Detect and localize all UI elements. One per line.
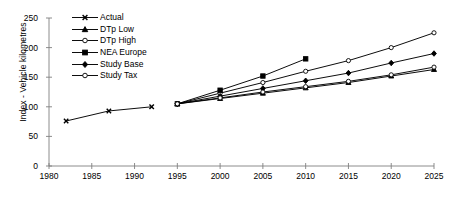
legend-item[interactable]: Study Tax [72,70,147,82]
legend-item[interactable]: DTp Low [72,24,147,36]
series-actual [64,105,154,124]
legend-item[interactable]: Actual [72,12,147,24]
marker-circle [261,90,265,94]
marker-diamond [432,51,437,57]
series-line [66,107,152,121]
marker-diamond [389,60,394,65]
legend-item[interactable]: NEA Europe [72,47,147,59]
marker-circle [346,59,350,63]
legend-marker-icon [72,35,98,46]
marker-square [83,50,88,55]
legend-item[interactable]: Study Base [72,58,147,70]
series-nea-europe [175,57,308,106]
legend-marker-icon [72,24,98,35]
legend-item[interactable]: DTp High [72,35,147,47]
marker-diamond [346,70,351,76]
marker-circle [83,39,88,44]
series-dtp-high [175,31,436,106]
marker-circle [389,73,393,77]
marker-square [261,74,265,78]
marker-circle [432,65,436,69]
marker-diamond [82,61,87,67]
marker-circle [261,80,265,84]
series-line [177,59,305,104]
marker-circle [389,46,393,50]
legend-marker-icon [72,12,98,23]
marker-circle [432,31,436,35]
marker-square [303,57,307,61]
plot-area [0,0,449,202]
marker-circle [218,96,222,100]
series-line [177,33,434,104]
marker-circle [304,85,308,89]
marker-circle [304,69,308,73]
legend-label: Study Tax [98,71,137,80]
legend-label: Actual [98,13,124,22]
marker-circle [346,79,350,83]
marker-circle [175,102,179,106]
marker-square [218,88,222,92]
legend-marker-icon [72,47,98,58]
legend-label: DTp Low [98,25,134,34]
legend-marker-icon [72,70,98,81]
chart-container: Index - Vehicle kilometres 0501001502002… [0,0,449,202]
legend-label: NEA Europe [98,48,147,57]
legend-label: DTp High [98,36,136,45]
marker-circle [83,73,88,78]
legend-label: Study Base [98,60,143,69]
chart-legend: ActualDTp LowDTp HighNEA EuropeStudy Bas… [72,12,147,82]
marker-diamond [303,78,308,84]
legend-marker-icon [72,59,98,70]
